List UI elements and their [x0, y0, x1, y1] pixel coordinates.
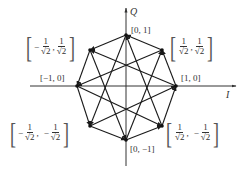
q-axis-label: Q [130, 6, 137, 17]
point-p3 [88, 48, 92, 52]
point-p2 [124, 33, 128, 37]
point-p1 [160, 48, 164, 52]
point-p4 [75, 84, 79, 88]
label-p7: [ 1√2 , − 1√2 ] [164, 118, 221, 148]
label-p6: [0, −1] [130, 145, 155, 154]
label-p5: [ − 1√2 , − 1√2 ] [8, 118, 71, 148]
label-p2: [0, 1] [131, 26, 151, 35]
point-p0 [174, 84, 178, 88]
label-p3: [ − 1√2 , 1√2 ] [24, 32, 77, 62]
point-p5 [88, 124, 92, 128]
point-p6 [124, 138, 128, 142]
label-p0: [1, 0] [181, 74, 201, 83]
label-p1: [ 1√2 , 1√2 ] [168, 32, 215, 62]
i-axis-label: I [226, 89, 229, 100]
label-p4: [−1, 0] [40, 74, 65, 83]
